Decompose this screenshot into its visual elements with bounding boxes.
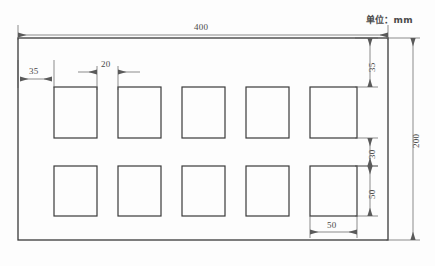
hole-r2-c5 [310, 166, 357, 216]
dimension-label-hole-height: 50 [367, 190, 377, 199]
dimension-label-edge-margin-top: 35 [367, 63, 377, 72]
hole-r1-c3 [182, 87, 225, 138]
hole-r2-c3 [182, 166, 225, 216]
hole-r1-c1 [54, 87, 97, 138]
hole-r2-c2 [118, 166, 161, 216]
dimension-label-overall-width: 400 [194, 22, 208, 32]
hole-r2-c1 [54, 166, 97, 216]
hole-r1-c5 [310, 87, 357, 138]
drawing-vector-layer [0, 0, 435, 266]
hole-r1-c2 [118, 87, 161, 138]
unit-note: 单位：mm [366, 13, 413, 26]
dimension-label-hole-gap-horizontal: 20 [101, 59, 110, 69]
dimension-label-edge-margin-left: 35 [29, 66, 38, 76]
dimension-label-hole-width: 50 [327, 220, 336, 230]
hole-r1-c4 [246, 87, 289, 138]
technical-drawing-canvas: 单位：mm 400 35 20 35 30 50 50 200 [0, 0, 435, 266]
hole-r2-c4 [246, 166, 289, 216]
dimension-label-row-gap-vertical: 30 [367, 150, 377, 159]
dimension-label-overall-height: 200 [411, 134, 421, 148]
